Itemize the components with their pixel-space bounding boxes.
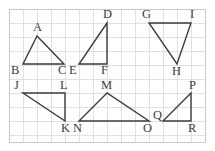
vertex-label-g: G — [142, 7, 151, 21]
vertex-label-j: J — [14, 78, 19, 92]
triangles-figure: ABCDEFGIHJLKMNOPQR — [0, 0, 215, 151]
vertex-label-f: F — [101, 63, 108, 77]
triangle-abc — [23, 36, 64, 64]
vertex-label-p: P — [189, 78, 196, 92]
vertex-label-b: B — [11, 63, 19, 77]
figure-container: ABCDEFGIHJLKMNOPQR — [0, 0, 215, 151]
vertex-label-i: I — [190, 7, 194, 21]
vertex-label-o: O — [143, 121, 152, 135]
vertex-label-d: D — [103, 7, 112, 21]
vertex-label-q: Q — [153, 108, 162, 122]
vertex-label-k: K — [61, 121, 70, 135]
vertex-label-h: H — [172, 64, 181, 78]
vertex-label-l: L — [60, 78, 68, 92]
vertex-label-n: N — [73, 121, 82, 135]
vertex-label-c: C — [58, 63, 66, 77]
vertex-label-r: R — [188, 121, 197, 135]
vertex-label-e: E — [69, 63, 77, 77]
vertex-label-a: A — [33, 20, 42, 34]
vertex-label-m: M — [101, 78, 112, 92]
triangle-ghi — [149, 23, 191, 64]
